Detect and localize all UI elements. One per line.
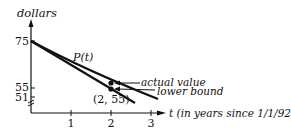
y-tick-label-75: 75	[15, 35, 29, 48]
x-tick-label-3: 3	[148, 117, 155, 130]
lower-bound-arrow	[117, 89, 155, 90]
curve-label: P(t)	[72, 51, 93, 64]
lower-bound-point	[108, 86, 113, 91]
x-tick-label-2: 2	[108, 117, 115, 130]
y-axis-label: dollars	[17, 6, 57, 20]
lower-bound-label: lower bound	[157, 85, 224, 97]
x-tick-label-1: 1	[68, 117, 75, 130]
x-axis-arrow-icon	[157, 111, 166, 116]
chart: dollars 75 55 51 1 2 3 t (in years since…	[0, 0, 291, 134]
y-tick-label-51: 51	[15, 91, 29, 104]
x-axis-label: t (in years since 1/1/92)	[169, 107, 291, 119]
y-axis-arrow-icon	[29, 19, 34, 27]
point-coordinate-label: (2, 55)	[93, 93, 130, 106]
actual-value-point	[108, 80, 113, 85]
curve-p-of-t	[31, 41, 158, 99]
